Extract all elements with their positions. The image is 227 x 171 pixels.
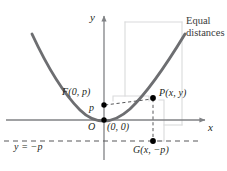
x-axis-label: x <box>208 122 213 133</box>
focus-point <box>101 102 106 107</box>
equal-distances-line2: distances <box>186 27 225 39</box>
directrix-label: y = −p <box>14 142 43 152</box>
origin-coordinates-label: (0, 0) <box>107 122 129 132</box>
origin-point-dot <box>101 117 106 122</box>
point-p-label: P(x, y) <box>159 88 186 98</box>
parabola-figure: y x F(0, p) p O (0, 0) P(x, y) G(x, −p) … <box>0 0 227 171</box>
y-axis-label: y <box>90 12 95 23</box>
equal-distances-line1: Equal <box>186 15 225 27</box>
focus-to-p-segment <box>105 99 152 105</box>
point-p-dot <box>150 95 156 101</box>
equal-distances-note: Equal distances <box>186 15 225 40</box>
point-g-label: G(x, −p) <box>133 145 169 155</box>
focal-distance-label: p <box>89 103 94 113</box>
bracket-focal-segment <box>113 96 149 101</box>
focus-label: F(0, p) <box>62 87 90 97</box>
parabola-curve <box>32 34 185 121</box>
origin-label: O <box>88 122 95 132</box>
